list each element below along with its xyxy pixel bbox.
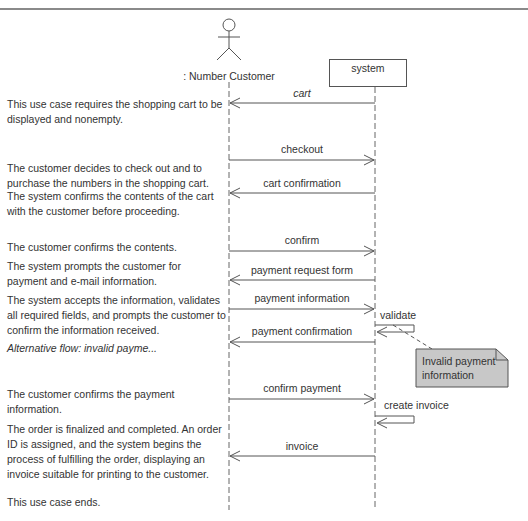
step-payment-prompt: The system prompts the customer for paym…	[7, 259, 182, 289]
step-order-finalized: The order is finalized and completed. An…	[7, 422, 227, 482]
step-end: This use case ends.	[7, 495, 227, 510]
note-line-2: information	[422, 368, 502, 382]
message-label-confirm: confirm	[285, 234, 319, 246]
step-alternative-flow: Alternative flow: invalid payme...	[7, 341, 227, 356]
step-precondition: This use case requires the shopping cart…	[7, 97, 227, 127]
message-label-cart: cart	[293, 87, 311, 99]
message-label-cart-confirmation: cart confirmation	[263, 177, 341, 189]
step-validate: The system accepts the information, vali…	[7, 293, 227, 338]
step-confirm-payment: The customer confirms the payment inform…	[7, 387, 182, 417]
message-label-invoice: invoice	[286, 440, 319, 452]
message-label-checkout: checkout	[281, 143, 323, 155]
message-label-payment-confirmation: payment confirmation	[252, 325, 352, 337]
step-checkout: The customer decides to check out and to…	[7, 161, 222, 191]
note-invalid-payment: Invalid payment information	[416, 349, 508, 387]
step-cart-confirmation: The system confirms the contents of the …	[7, 189, 227, 219]
message-label-payment-information: payment information	[254, 292, 349, 304]
message-label-payment-request-form: payment request form	[251, 264, 353, 276]
actor-customer-label: : Number Customer	[183, 70, 275, 82]
system-participant-box: system	[329, 59, 407, 87]
step-confirm-contents: The customer confirms the contents.	[7, 240, 227, 255]
message-label-confirm-payment: confirm payment	[263, 382, 341, 394]
actor-icon	[217, 19, 241, 60]
note-line-1: Invalid payment	[422, 354, 502, 368]
message-label-create-invoice: create invoice	[384, 399, 449, 411]
message-label-validate: validate	[380, 309, 416, 321]
